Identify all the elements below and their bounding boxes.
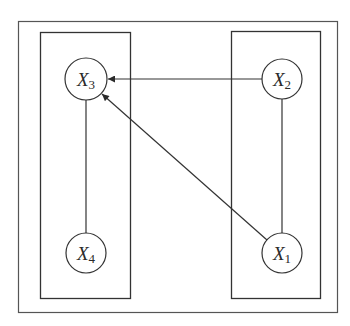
node-x1-subscript: 1 (285, 251, 292, 266)
node-x3-subscript: 3 (89, 77, 96, 92)
graph-diagram: X3 X4 X2 X1 (0, 0, 350, 326)
node-x2: X2 (262, 59, 302, 99)
node-x1: X1 (262, 233, 302, 273)
node-x4: X4 (66, 233, 106, 273)
node-x2-subscript: 2 (285, 77, 292, 92)
node-x4-subscript: 4 (89, 251, 96, 266)
edge-x1-to-x3 (102, 94, 267, 240)
node-x3: X3 (65, 58, 107, 100)
